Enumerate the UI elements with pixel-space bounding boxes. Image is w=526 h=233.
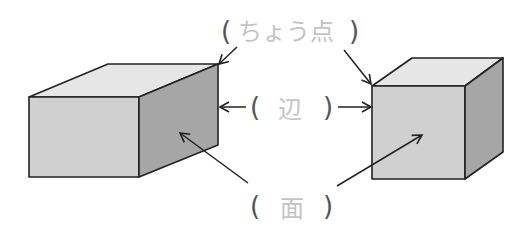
edge-close-paren: ) bbox=[323, 92, 333, 122]
vertex-open-paren: ( bbox=[221, 16, 231, 46]
edge-answer: 辺 bbox=[278, 96, 302, 124]
face-label: ( 面 ) bbox=[250, 191, 333, 223]
vertex-arrow-right bbox=[344, 50, 371, 84]
vertex-close-paren: ) bbox=[349, 16, 359, 46]
vertex-label: ( ちょう点 ) bbox=[221, 16, 359, 46]
edge-open-paren: ( bbox=[250, 92, 260, 122]
face-answer: 面 bbox=[280, 195, 304, 223]
edge-label: ( 辺 ) bbox=[250, 92, 333, 124]
rectangular-prism bbox=[29, 64, 218, 177]
cube-front-face bbox=[372, 86, 465, 179]
face-open-paren: ( bbox=[250, 191, 260, 221]
vertex-answer: ちょう点 bbox=[238, 18, 334, 46]
vertex-arrow-left bbox=[219, 47, 237, 64]
cube bbox=[372, 58, 503, 179]
face-close-paren: ) bbox=[323, 191, 333, 221]
solids-diagram: ( ちょう点 ) ( 辺 ) ( 面 ) bbox=[0, 0, 526, 233]
prism-front-face bbox=[29, 97, 139, 177]
